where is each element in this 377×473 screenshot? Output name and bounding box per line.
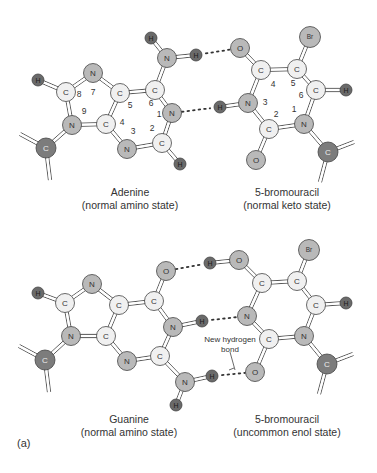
h-atom: H <box>214 101 226 113</box>
annotation-line-1: New hydrogen <box>190 335 270 345</box>
ring-number: 3 <box>131 126 136 136</box>
svg-text:N: N <box>301 332 307 341</box>
svg-text:O: O <box>236 256 242 265</box>
guanine-caption: Guanine (normal amino state) <box>74 413 184 439</box>
svg-text:C: C <box>159 139 165 148</box>
c-atom: C <box>57 83 76 102</box>
n-atom: N <box>239 94 258 113</box>
adenine-name: Adenine <box>75 186 185 199</box>
c-atom: C <box>153 134 172 153</box>
svg-text:C: C <box>266 125 272 134</box>
h-atom: H <box>170 399 182 411</box>
svg-text:N: N <box>124 145 130 154</box>
svg-text:O: O <box>237 44 243 53</box>
svg-text:N: N <box>90 69 96 78</box>
svg-text:C: C <box>42 356 48 365</box>
bromouracil-enol-state: (uncommon enol state) <box>222 426 352 439</box>
n-atom: N <box>83 275 102 294</box>
n-atom: N <box>118 140 137 159</box>
svg-text:C: C <box>313 301 319 310</box>
ring-number: 9 <box>82 106 87 116</box>
svg-text:C: C <box>325 148 331 157</box>
svg-text:H: H <box>199 318 204 325</box>
svg-text:C: C <box>63 88 69 97</box>
c-atom: C <box>145 292 164 311</box>
svg-text:N: N <box>170 323 176 332</box>
n-atom: N <box>295 115 314 134</box>
svg-text:H: H <box>343 87 348 94</box>
h-atom: H <box>196 315 208 327</box>
br-atom: Br <box>300 27 321 48</box>
svg-text:H: H <box>209 373 214 380</box>
o-atom: O <box>246 363 265 382</box>
h-atom: H <box>340 297 352 309</box>
svg-text:H: H <box>177 161 182 168</box>
n-atom: N <box>63 116 82 135</box>
ring-number: 1 <box>292 104 297 114</box>
guanine-state: (normal amino state) <box>74 426 184 439</box>
svg-text:Br: Br <box>307 33 314 40</box>
h-atom: H <box>145 32 157 44</box>
guanine-name: Guanine <box>74 413 184 426</box>
svg-text:C: C <box>62 299 68 308</box>
n-atom: N <box>84 64 103 83</box>
svg-text:C: C <box>152 86 158 95</box>
svg-text:C: C <box>43 144 49 153</box>
new-hydrogen-bond-annotation: New hydrogen bond <box>190 335 270 355</box>
hydrogen-bond-dots <box>206 50 230 54</box>
c-atom: C <box>307 296 326 315</box>
svg-text:O: O <box>163 267 169 276</box>
h-atom: H <box>204 257 216 269</box>
sugar-carbon-atom: C <box>36 138 56 158</box>
svg-text:H: H <box>35 77 40 84</box>
c-atom: C <box>253 274 272 293</box>
svg-text:C: C <box>103 332 109 341</box>
h-atom: H <box>190 49 202 61</box>
svg-text:C: C <box>313 86 319 95</box>
svg-text:N: N <box>89 280 95 289</box>
svg-text:C: C <box>324 360 330 369</box>
bromouracil-enol-caption: 5-bromouracil (uncommon enol state) <box>222 413 352 439</box>
adenine-state: (normal amino state) <box>75 199 185 212</box>
svg-text:N: N <box>244 312 250 321</box>
svg-text:N: N <box>169 109 175 118</box>
ring-number: 2 <box>274 109 279 119</box>
svg-text:C: C <box>103 120 109 129</box>
ring-number: 5 <box>291 78 296 88</box>
svg-text:C: C <box>117 89 123 98</box>
adenine-caption: Adenine (normal amino state) <box>75 186 185 212</box>
h-atom: H <box>340 84 352 96</box>
c-atom: C <box>151 347 170 366</box>
n-atom: N <box>62 327 81 346</box>
n-atom: N <box>163 104 182 123</box>
c-atom: C <box>252 61 271 80</box>
svg-text:N: N <box>124 357 130 366</box>
bromouracil-keto-name: 5-bromouracil <box>232 186 342 199</box>
ring-number: 5 <box>128 100 133 110</box>
n-atom: N <box>238 307 257 326</box>
new-hbond-pointer-line <box>229 368 234 370</box>
svg-text:H: H <box>35 290 40 297</box>
annotation-line-2: bond <box>190 345 270 355</box>
ring-number: 6 <box>299 90 304 100</box>
n-atom: N <box>176 373 195 392</box>
svg-text:N: N <box>182 378 188 387</box>
o-atom: O <box>157 262 176 281</box>
c-atom: C <box>288 60 307 79</box>
ring-number: 8 <box>77 89 82 99</box>
ring-number: 3 <box>263 97 268 107</box>
svg-text:H: H <box>343 300 348 307</box>
o-atom: O <box>230 251 249 270</box>
svg-text:N: N <box>164 54 170 63</box>
ring-number: 1 <box>157 109 162 119</box>
svg-text:O: O <box>253 156 259 165</box>
ring-number: 4 <box>120 117 125 127</box>
svg-text:H: H <box>148 35 153 42</box>
bromouracil-enol-name: 5-bromouracil <box>222 413 352 426</box>
bromouracil-keto-caption: 5-bromouracil (normal keto state) <box>232 186 342 212</box>
svg-text:H: H <box>193 52 198 59</box>
svg-text:C: C <box>157 352 163 361</box>
sugar-carbon-atom: C <box>317 354 337 374</box>
svg-text:N: N <box>301 120 307 129</box>
c-atom: C <box>110 296 129 315</box>
